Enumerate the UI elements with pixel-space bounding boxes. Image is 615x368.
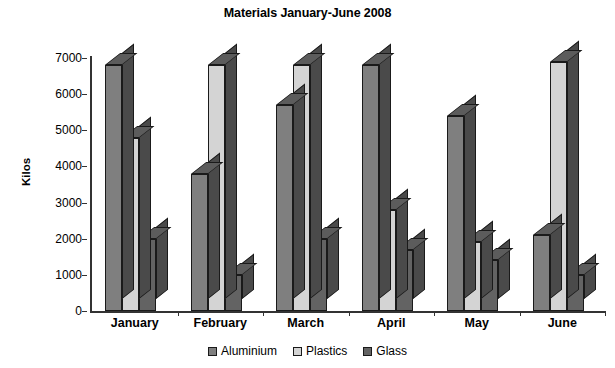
y-tickmark	[82, 203, 87, 204]
y-tick-0: 0	[38, 306, 82, 316]
bar-face-side	[567, 40, 579, 299]
bar-group-april	[362, 58, 413, 311]
bar-face-front	[447, 116, 464, 311]
y-axis-label: Kilos	[20, 132, 32, 212]
bar-group-march	[276, 58, 327, 311]
chart-legend: AluminiumPlasticsGlass	[0, 344, 615, 358]
y-tick-6000: 6000	[38, 89, 82, 99]
bar-face-side	[208, 152, 220, 299]
bar-face-side	[310, 44, 322, 299]
legend-item-glass[interactable]: Glass	[363, 344, 407, 358]
bar-face-side	[242, 253, 254, 299]
bar-face-side	[225, 44, 237, 299]
y-tickmark	[82, 275, 87, 276]
y-tick-5000: 5000	[38, 125, 82, 135]
chart-title: Materials January-June 2008	[0, 6, 615, 20]
y-tickmark	[82, 94, 87, 95]
bar-face-front	[276, 105, 293, 311]
bar-april-aluminium	[362, 65, 379, 311]
bar-face-front	[362, 65, 379, 311]
bar-face-side	[584, 253, 596, 299]
legend-item-aluminium[interactable]: Aluminium	[208, 344, 277, 358]
bar-february-aluminium	[191, 174, 208, 311]
bar-face-side	[293, 84, 305, 299]
plot-area	[92, 58, 605, 311]
bar-face-front	[191, 174, 208, 311]
bar-january-aluminium	[105, 65, 122, 311]
y-tick-7000: 7000	[38, 53, 82, 63]
legend-label: Glass	[376, 344, 407, 358]
legend-label: Aluminium	[221, 344, 277, 358]
bar-group-may	[447, 58, 498, 311]
legend-label: Plastics	[306, 344, 347, 358]
bar-group-january	[105, 58, 156, 311]
bar-face-front	[533, 235, 550, 311]
bar-march-aluminium	[276, 105, 293, 311]
bar-face-side	[379, 44, 391, 299]
y-tickmark	[82, 58, 87, 59]
legend-swatch-icon	[208, 347, 217, 356]
y-tick-1000: 1000	[38, 270, 82, 280]
y-tick-3000: 3000	[38, 198, 82, 208]
y-tickmark	[82, 239, 87, 240]
bar-may-aluminium	[447, 116, 464, 311]
bar-face-side	[122, 44, 134, 299]
bar-june-aluminium	[533, 235, 550, 311]
y-tick-2000: 2000	[38, 234, 82, 244]
legend-item-plastics[interactable]: Plastics	[293, 344, 347, 358]
chart-container: Materials January-June 2008 Kilos 700060…	[0, 0, 615, 368]
y-axis-tick-labels: 70006000500040003000200010000	[36, 0, 82, 368]
bar-group-february	[191, 58, 242, 311]
bar-face-front	[105, 65, 122, 311]
x-tickmark	[605, 311, 606, 316]
bar-face-side	[139, 116, 151, 299]
legend-swatch-icon	[363, 347, 372, 356]
legend-swatch-icon	[293, 347, 302, 356]
y-tickmark	[82, 311, 87, 312]
y-tickmark	[82, 166, 87, 167]
x-tick-june: June	[512, 316, 612, 330]
bar-face-side	[464, 94, 476, 299]
y-tickmark	[82, 130, 87, 131]
y-tick-4000: 4000	[38, 161, 82, 171]
bar-group-june	[533, 58, 584, 311]
